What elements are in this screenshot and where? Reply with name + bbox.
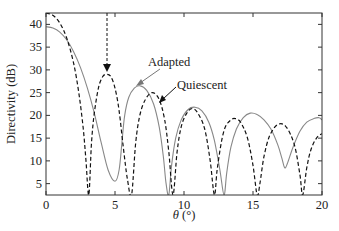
y-axis-label: Directivity (dB) [4,64,18,144]
plot-frame [46,13,322,195]
x-tick-label: 20 [316,198,329,212]
y-tick-label: 5 [36,177,42,191]
y-tick-label: 15 [30,131,43,145]
quiescent-label: Quiescent [177,78,228,92]
x-axis-label: θ (°) [173,208,196,222]
y-tick-label: 40 [30,17,43,31]
x-tick-label: 15 [247,198,260,212]
adapted-curve [46,27,322,196]
plot-area [46,13,322,196]
x-tick-label: 0 [43,198,49,212]
adapted-label: Adapted [148,55,191,69]
x-axis-unit: (°) [179,208,195,222]
chart-canvas: 510152025303540 05101520 Adapted Quiesce… [0,0,339,231]
jammer-arrow-icon [103,13,111,72]
y-tick-label: 35 [30,40,43,54]
y-tick-label: 10 [30,154,43,168]
y-tick-label: 20 [30,108,43,122]
y-tick-label: 25 [30,86,43,100]
y-tick-label: 30 [30,63,43,77]
quiescent-curve [46,13,322,196]
x-tick-label: 5 [112,198,118,212]
directivity-chart: 510152025303540 05101520 Adapted Quiesce… [0,0,339,231]
quiescent-annotation: Quiescent [159,78,228,103]
